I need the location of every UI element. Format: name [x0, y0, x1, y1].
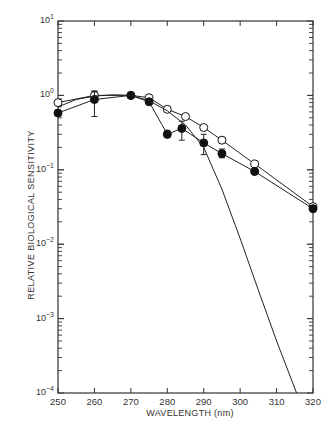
y-tick-label: 100 — [24, 87, 54, 99]
y-tick-label: 10−3 — [24, 311, 54, 323]
filled-circle-marker — [251, 167, 259, 175]
x-axis-title: WAVELENGTH (nm) — [120, 408, 260, 418]
filled-circle-marker — [54, 109, 62, 117]
x-tick-label: 310 — [265, 396, 289, 407]
series-filled-circles — [54, 91, 317, 212]
series-line — [58, 95, 297, 393]
filled-circle-marker — [200, 139, 208, 147]
open-circle-marker — [200, 124, 208, 132]
y-axis-title: RELATIVE BIOLOGICAL SENSITIVITY — [26, 120, 36, 310]
filled-circle-marker — [218, 150, 226, 158]
x-tick-label: 300 — [228, 396, 252, 407]
x-tick-label: 270 — [119, 396, 143, 407]
open-circle-marker — [182, 113, 190, 121]
filled-circle-marker — [178, 124, 186, 132]
x-tick-label: 290 — [192, 396, 216, 407]
open-circle-marker — [251, 160, 259, 168]
x-tick-label: 260 — [82, 396, 106, 407]
series-open-circles — [54, 91, 317, 211]
y-tick-label: 101 — [24, 13, 54, 25]
chart-canvas — [0, 0, 332, 434]
data-series-layer — [54, 91, 317, 393]
x-tick-label: 320 — [301, 396, 325, 407]
open-circle-marker — [218, 136, 226, 144]
x-tick-label: 280 — [155, 396, 179, 407]
filled-circle-marker — [309, 205, 317, 213]
x-tick-label: 250 — [46, 396, 70, 407]
filled-circle-marker — [163, 130, 171, 138]
series-action-spectrum-curve — [58, 95, 297, 393]
